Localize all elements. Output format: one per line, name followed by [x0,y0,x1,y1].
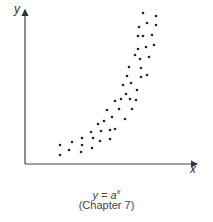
data-point [130,82,133,85]
data-point [151,34,154,37]
data-point [120,98,123,101]
data-point [134,54,137,57]
data-point [99,140,102,143]
data-point [155,15,158,18]
data-point [135,99,138,102]
data-point [97,123,100,126]
data-point [68,149,71,152]
data-point [137,35,140,38]
data-point [81,144,84,147]
data-point [128,66,131,69]
data-point [122,84,125,87]
data-point [114,100,117,103]
caption-chapter: (Chapter 7) [0,199,213,211]
data-point [103,120,106,123]
data-point [91,147,94,150]
data-point [137,48,140,51]
data-point [111,116,114,119]
data-point [129,98,132,101]
data-point [155,24,158,27]
data-points [59,12,158,157]
data-point [140,67,143,70]
data-point [138,26,141,29]
data-point [71,141,74,144]
data-point [109,129,112,132]
data-point [126,75,129,78]
data-point [109,138,112,141]
data-point [139,58,142,61]
data-point [124,118,127,121]
data-point [146,74,149,77]
data-point [90,131,93,134]
data-point [136,89,139,92]
data-point [125,93,128,96]
data-point [142,35,145,38]
data-point [92,137,95,140]
data-point [146,22,149,25]
data-point [153,44,156,47]
data-point [131,108,134,111]
data-point [114,128,117,131]
data-point [148,56,151,59]
x-axis-label: x [190,162,196,176]
data-point [140,76,143,79]
data-point [59,144,62,147]
data-point [80,151,83,154]
data-point [106,109,109,112]
data-point [145,46,148,49]
data-point [100,130,103,133]
y-axis-label: y [14,2,20,16]
data-point [142,12,145,15]
data-point [59,154,62,157]
data-point [118,108,121,111]
data-point [81,137,84,140]
